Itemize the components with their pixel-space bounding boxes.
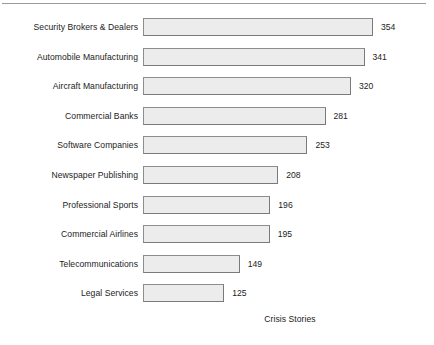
bar[interactable]	[143, 166, 278, 184]
bar-track	[143, 196, 373, 214]
bar[interactable]	[143, 225, 270, 243]
bar-value-label: 354	[381, 14, 395, 40]
bar-row: Software Companies253	[0, 132, 434, 158]
bar-track	[143, 166, 373, 184]
category-label: Telecommunications	[0, 251, 138, 277]
bar[interactable]	[143, 136, 307, 154]
bar-track	[143, 225, 373, 243]
bar-row: Professional Sports196	[0, 192, 434, 218]
bar-value-label: 253	[315, 132, 329, 158]
bar-value-label: 125	[232, 280, 246, 306]
bar-row: Commercial Banks281	[0, 103, 434, 129]
bar-track	[143, 48, 373, 66]
bar[interactable]	[143, 196, 270, 214]
category-label: Security Brokers & Dealers	[0, 14, 138, 40]
bar-row: Legal Services125	[0, 280, 434, 306]
top-divider-rule	[2, 3, 426, 4]
bar[interactable]	[143, 77, 351, 95]
bar[interactable]	[143, 18, 373, 36]
bar-track	[143, 136, 373, 154]
bar-row: Automobile Manufacturing341	[0, 44, 434, 70]
bar[interactable]	[143, 107, 326, 125]
category-label: Software Companies	[0, 132, 138, 158]
category-label: Legal Services	[0, 280, 138, 306]
bar-track	[143, 284, 373, 302]
category-label: Aircraft Manufacturing	[0, 73, 138, 99]
bar-row: Security Brokers & Dealers354	[0, 14, 434, 40]
category-label: Automobile Manufacturing	[0, 44, 138, 70]
x-axis-title: Crisis Stories	[0, 314, 434, 324]
category-label: Commercial Banks	[0, 103, 138, 129]
plot-area: Security Brokers & Dealers354Automobile …	[0, 14, 434, 310]
bar-row: Newspaper Publishing208	[0, 162, 434, 188]
bar-value-label: 149	[248, 251, 262, 277]
bar-value-label: 320	[359, 73, 373, 99]
category-label: Newspaper Publishing	[0, 162, 138, 188]
bar-value-label: 208	[286, 162, 300, 188]
bar-row: Telecommunications149	[0, 251, 434, 277]
bar[interactable]	[143, 48, 365, 66]
bar-value-label: 341	[373, 44, 387, 70]
bar-row: Aircraft Manufacturing320	[0, 73, 434, 99]
bar-chart: Security Brokers & Dealers354Automobile …	[0, 0, 434, 345]
category-label: Professional Sports	[0, 192, 138, 218]
bar-value-label: 196	[278, 192, 292, 218]
bar-track	[143, 18, 373, 36]
bar[interactable]	[143, 255, 240, 273]
x-axis-title-label: Crisis Stories	[264, 314, 315, 324]
bar-track	[143, 77, 373, 95]
bar[interactable]	[143, 284, 224, 302]
bar-row: Commercial Airlines195	[0, 221, 434, 247]
category-label: Commercial Airlines	[0, 221, 138, 247]
bar-value-label: 195	[278, 221, 292, 247]
bar-value-label: 281	[334, 103, 348, 129]
